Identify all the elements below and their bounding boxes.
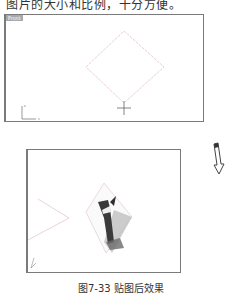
crosshair-cursor-icon xyxy=(117,101,131,115)
perspective-viewport-canvas xyxy=(28,150,181,272)
front-viewport[interactable]: Front z x xyxy=(4,14,204,122)
body-text-top: 图片的大小和比例，十分方便。 xyxy=(6,0,181,12)
diamond-curve xyxy=(86,31,164,103)
figure-caption: 图7-33 贴图后效果 xyxy=(78,280,164,295)
front-viewport-canvas: z x xyxy=(6,15,204,121)
svg-text:z: z xyxy=(24,104,26,108)
axis-gizmo-icon xyxy=(31,258,36,268)
svg-text:x: x xyxy=(38,117,40,121)
perspective-viewport[interactable] xyxy=(26,149,181,273)
diamond-curve-perspective xyxy=(28,199,69,240)
down-arrow-icon xyxy=(208,142,230,178)
